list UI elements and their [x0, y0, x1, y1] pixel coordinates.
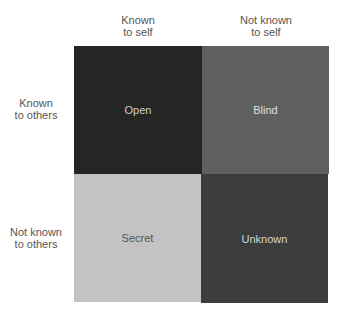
row-label-line: to others — [0, 109, 72, 121]
row-label-line: Not known — [0, 226, 72, 238]
row-label-line: Known — [0, 97, 72, 109]
row-label-line: to others — [0, 238, 72, 250]
column-label-line: to self — [202, 26, 330, 38]
quadrant-unknown: Unknown — [201, 174, 328, 303]
quadrant-label: Secret — [122, 232, 154, 244]
quadrant-open: Open — [74, 46, 202, 174]
quadrant-label: Open — [125, 104, 152, 116]
column-label-line: to self — [74, 26, 202, 38]
quadrant-blind: Blind — [202, 46, 329, 174]
column-label-known-to-self: Known to self — [74, 14, 202, 38]
quadrant-secret: Secret — [74, 174, 201, 302]
column-label-line: Not known — [202, 14, 330, 26]
quadrant-label: Unknown — [242, 233, 288, 245]
quadrant-label: Blind — [253, 104, 277, 116]
row-label-not-known-to-others: Not known to others — [0, 226, 72, 250]
column-label-not-known-to-self: Not known to self — [202, 14, 330, 38]
row-label-known-to-others: Known to others — [0, 97, 72, 121]
column-label-line: Known — [74, 14, 202, 26]
